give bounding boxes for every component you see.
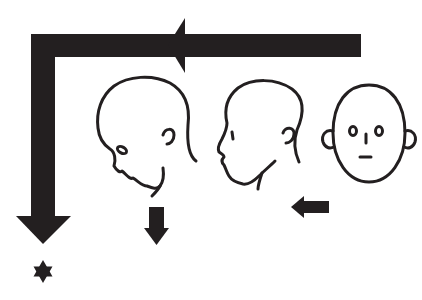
head-frontal [323,85,416,182]
arrow-left-small-icon [291,196,329,218]
head-tilted-back [98,77,196,196]
star-icon [34,260,53,283]
diagram-canvas [0,0,422,300]
arrow-down-small-icon [144,207,169,245]
head-profile [218,81,302,189]
